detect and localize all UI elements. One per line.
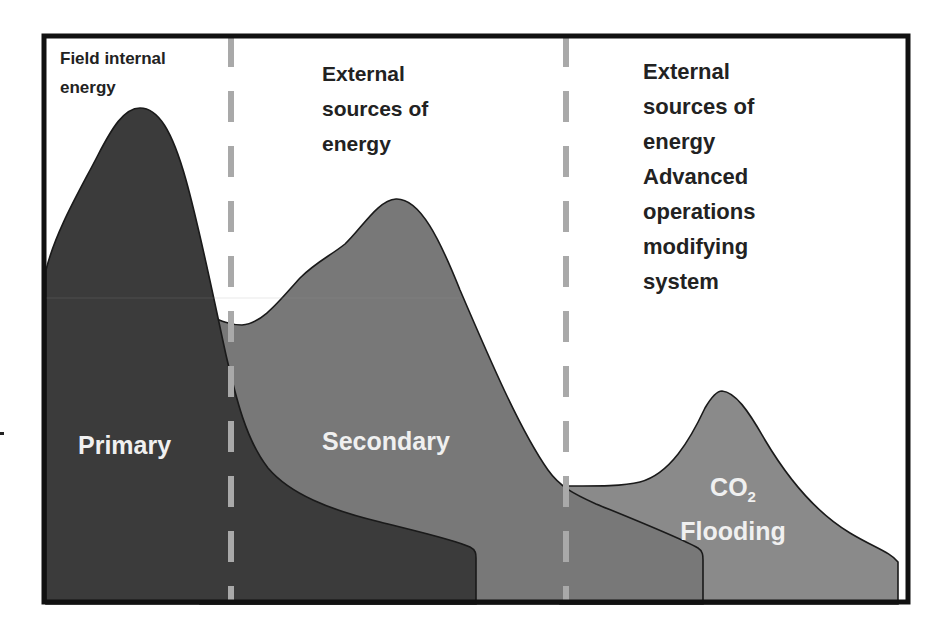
label-co2-flooding: CO2 Flooding: [668, 470, 798, 548]
axis-tick-mark: [0, 432, 4, 435]
header-field-internal-energy: Field internal energy: [60, 44, 166, 102]
label-flooding: Flooding: [668, 514, 798, 548]
label-secondary: Secondary: [322, 424, 450, 458]
header-external-advanced: External sources of energy Advanced oper…: [643, 54, 755, 299]
header-external-sources: External sources of energy: [322, 56, 428, 161]
label-primary: Primary: [78, 428, 171, 462]
label-co2: CO2: [668, 470, 798, 514]
